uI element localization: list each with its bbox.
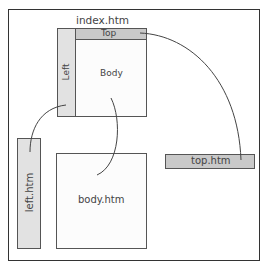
top-htm-label: top.htm [191,155,231,166]
left-region-label: Left [61,62,71,82]
body-region-label: Body [100,68,123,78]
body-htm-label: body.htm [78,194,124,205]
index-htm-label: index.htm [76,14,129,26]
left-htm-label: left.htm [24,158,35,228]
top-region-label: Top [101,28,116,38]
frameset-diagram: index.htm Top Left Body left.htm body.ht… [0,0,269,271]
